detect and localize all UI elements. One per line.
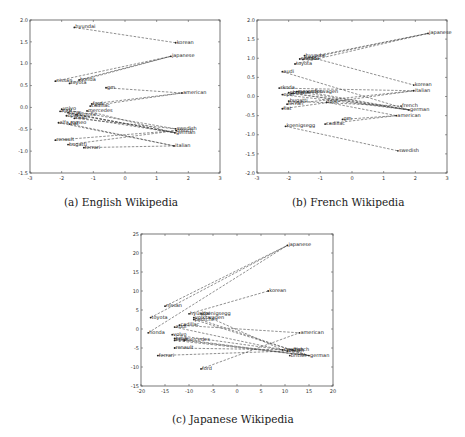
x-tick-label: 0 xyxy=(350,175,353,181)
x-tick-label: 3 xyxy=(218,175,221,181)
y-tick-label: 20 xyxy=(133,250,139,256)
point-label: japanese xyxy=(171,52,195,59)
point-label: italian xyxy=(415,87,430,93)
y-tick-label: 1.0 xyxy=(247,55,255,61)
caption-c: (c) Japanese Wikipedia xyxy=(172,413,294,425)
x-tick-label: 20 xyxy=(330,388,336,394)
point-label: american xyxy=(300,329,323,335)
x-tick-label: -1 xyxy=(318,175,323,181)
chart-a-svg: -3-2-10123-1.5-1.0-0.50.00.51.01.52.0hyu… xyxy=(0,0,232,186)
point-label: honda xyxy=(149,329,165,335)
x-tick-label: -1 xyxy=(91,175,96,181)
point-label: volkswagen xyxy=(309,88,338,95)
y-tick-label: -1.0 xyxy=(245,131,255,137)
x-tick-label: 10 xyxy=(282,388,288,394)
point-label: ford xyxy=(202,365,212,371)
point-label: korean xyxy=(177,39,194,45)
y-tick-label: 0.0 xyxy=(20,104,28,110)
point-label: korean xyxy=(269,287,286,293)
y-tick-label: 10 xyxy=(133,288,139,294)
x-tick-label: 1 xyxy=(382,175,385,181)
point-label: mercedes xyxy=(185,336,210,342)
caption-a: (a) English Wikipedia xyxy=(64,196,178,208)
chart-b-svg: -3-2-10123-2.0-1.5-1.0-0.50.00.51.01.52.… xyxy=(232,0,465,186)
point-label: ferrari xyxy=(159,352,174,358)
point-label: italian xyxy=(175,142,190,148)
chart-a: -3-2-10123-1.5-1.0-0.50.00.51.01.52.0hyu… xyxy=(0,0,232,186)
chart-c: -20-15-10-505101520-15-10-50510152025jap… xyxy=(0,220,465,400)
y-tick-label: -1.5 xyxy=(18,170,28,176)
point-label: cadillac xyxy=(180,321,199,327)
y-tick-label: 25 xyxy=(133,231,139,237)
chart-b: -3-2-10123-2.0-1.5-1.0-0.50.00.51.01.52.… xyxy=(232,0,465,186)
point-label: fiat xyxy=(71,120,79,126)
point-label: toyota xyxy=(71,79,87,86)
x-tick-label: 0 xyxy=(123,175,126,181)
point-label: american xyxy=(397,112,420,118)
x-tick-label: -15 xyxy=(161,388,169,394)
y-tick-label: 0.5 xyxy=(20,82,28,88)
point-label: fiat xyxy=(283,105,291,111)
y-tick-label: -1.5 xyxy=(245,151,255,157)
y-tick-label: 0.5 xyxy=(247,74,255,80)
plot-area xyxy=(141,234,333,386)
x-tick-label: -3 xyxy=(255,175,260,181)
point-label: swedish xyxy=(399,147,419,153)
y-tick-label: 1.0 xyxy=(20,60,28,66)
point-label: nissan xyxy=(166,302,182,308)
y-tick-label: 15 xyxy=(133,269,139,275)
point-label: cadillac xyxy=(326,120,345,126)
y-tick-label: -5 xyxy=(134,345,139,351)
y-tick-label: -15 xyxy=(131,383,139,389)
point-label: koenigsegg xyxy=(287,122,316,129)
point-label: gm xyxy=(107,84,115,91)
y-tick-label: -2.0 xyxy=(245,170,255,176)
y-tick-label: -10 xyxy=(131,364,139,370)
x-tick-label: -2 xyxy=(59,175,64,181)
x-tick-label: 0 xyxy=(235,388,238,394)
x-tick-label: 1 xyxy=(155,175,158,181)
point-label: ferrari xyxy=(85,144,100,150)
x-tick-label: -10 xyxy=(185,388,193,394)
x-tick-label: -5 xyxy=(211,388,216,394)
y-tick-label: -0.5 xyxy=(245,112,255,118)
point-label: toyota xyxy=(296,60,312,67)
point-label: bmw xyxy=(293,89,305,95)
y-tick-label: -1.0 xyxy=(18,148,28,154)
y-tick-label: 0 xyxy=(136,326,139,332)
y-tick-label: 1.5 xyxy=(20,39,28,45)
y-tick-label: 2.0 xyxy=(247,17,255,23)
point-label: german xyxy=(176,129,195,136)
point-label: american xyxy=(183,89,206,95)
caption-b: (b) French Wikipedia xyxy=(292,196,404,208)
point-label: japanese xyxy=(428,29,452,36)
point-label: renault xyxy=(176,344,194,350)
x-tick-label: 5 xyxy=(259,388,262,394)
point-label: ford xyxy=(328,98,338,104)
x-tick-label: -2 xyxy=(286,175,291,181)
point-label: german xyxy=(310,352,329,359)
point-label: toyota xyxy=(152,314,168,321)
x-tick-label: -3 xyxy=(28,175,33,181)
point-label: japanese xyxy=(287,241,311,248)
point-label: audi xyxy=(283,68,294,74)
y-tick-label: 5 xyxy=(136,307,139,313)
x-tick-label: 3 xyxy=(445,175,448,181)
y-tick-label: -0.5 xyxy=(18,126,28,132)
y-tick-label: 2.0 xyxy=(20,17,28,23)
x-tick-label: 15 xyxy=(306,388,312,394)
y-tick-label: 1.5 xyxy=(247,36,255,42)
point-label: hyundai xyxy=(75,23,95,30)
point-label: british xyxy=(291,352,307,358)
x-tick-label: 2 xyxy=(414,175,417,181)
chart-c-svg: -20-15-10-505101520-15-10-50510152025jap… xyxy=(0,220,465,400)
y-tick-label: 0.0 xyxy=(247,93,255,99)
x-tick-label: -20 xyxy=(137,388,145,394)
x-tick-label: 2 xyxy=(187,175,190,181)
